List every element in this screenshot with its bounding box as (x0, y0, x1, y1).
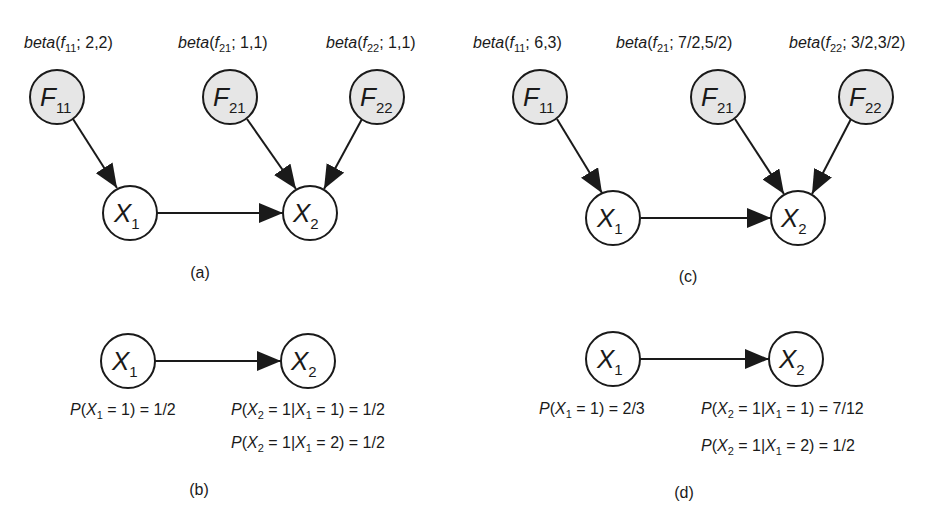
prob-x2-given-x1-eq-2: P(X2 = 1|X1 = 2) = 1/2 (231, 434, 385, 454)
prior-label-f22: beta(f22; 3/2,3/2) (789, 34, 905, 54)
caption-a: (a) (190, 264, 210, 281)
edge-f22-x2 (812, 119, 851, 194)
edge-f21-x2 (735, 119, 784, 194)
edge-f11-x1 (73, 119, 117, 188)
node-x1: X1 (586, 332, 640, 386)
node-x1: X1 (586, 191, 640, 245)
prob-x1: P(X1 = 1) = 2/3 (539, 400, 645, 420)
node-x2: X2 (771, 191, 825, 245)
node-f11: F11 (513, 70, 567, 124)
node-f22: F22 (839, 70, 893, 124)
prior-label-f22: beta(f22; 1,1) (326, 34, 416, 54)
node-f21: F21 (203, 70, 257, 124)
node-x2: X2 (283, 186, 337, 240)
prior-label-f21: beta(f21; 7/2,5/2) (616, 34, 732, 54)
caption-d: (d) (674, 484, 694, 501)
edge-f11-x1 (557, 119, 602, 193)
node-x1: X1 (103, 186, 157, 240)
node-f22: F22 (350, 70, 404, 124)
node-x2: X2 (281, 334, 335, 388)
caption-b: (b) (189, 481, 209, 498)
prob-x2-given-x1-eq-1: P(X2 = 1|X1 = 1) = 7/12 (701, 400, 864, 420)
panel-c: beta(f11; 6,3) beta(f21; 7/2,5/2) beta(f… (473, 34, 905, 285)
panel-a: beta(f11; 2,2) beta(f21; 1,1) beta(f22; … (24, 34, 416, 281)
prob-x2-given-x1-eq-2: P(X2 = 1|X1 = 2) = 1/2 (701, 437, 855, 457)
prior-label-f21: beta(f21; 1,1) (178, 34, 268, 54)
prob-x1: P(X1 = 1) = 1/2 (70, 401, 176, 421)
panel-d: X1 X2 P(X1 = 1) = 2/3 P(X2 = 1|X1 = 1) =… (539, 332, 864, 501)
panel-b: X1 X2 P(X1 = 1) = 1/2 P(X2 = 1|X1 = 1) =… (70, 334, 385, 498)
node-x1: X1 (101, 334, 155, 388)
node-f21: F21 (691, 70, 745, 124)
prob-x2-given-x1-eq-1: P(X2 = 1|X1 = 1) = 1/2 (231, 401, 385, 421)
edge-f21-x2 (247, 119, 296, 189)
edge-f22-x2 (324, 119, 362, 189)
prior-label-f11: beta(f11; 2,2) (24, 34, 113, 54)
caption-c: (c) (679, 268, 698, 285)
node-x2: X2 (769, 332, 823, 386)
bayesian-network-figure: beta(f11; 2,2) beta(f21; 1,1) beta(f22; … (0, 0, 946, 525)
prior-label-f11: beta(f11; 6,3) (473, 34, 562, 54)
node-f11: F11 (30, 70, 84, 124)
